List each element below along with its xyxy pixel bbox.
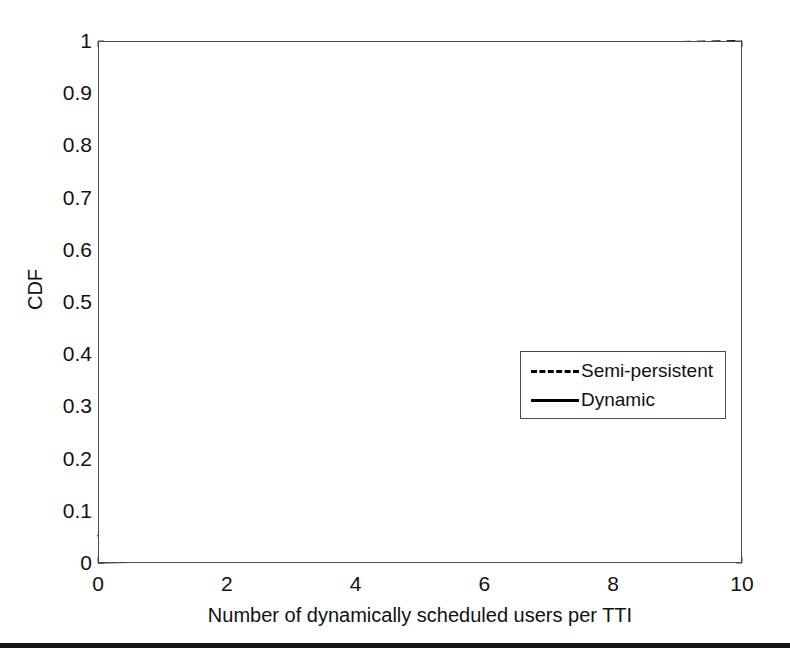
legend-label-semi-persistent: Semi-persistent: [581, 361, 713, 380]
legend-item-semi-persistent: Semi-persistent: [529, 356, 725, 385]
x-tick-label: 0: [68, 573, 128, 594]
y-tick-label: 0.8: [34, 134, 92, 155]
x-tick-label: 8: [583, 573, 643, 594]
scan-artifact-bar: [0, 643, 790, 648]
chart-legend: Semi-persistent Dynamic: [520, 351, 726, 419]
x-axis-tick-labels: 0246810: [0, 573, 790, 603]
y-tick-label: 0.9: [34, 82, 92, 103]
plot-area: [98, 41, 742, 563]
y-tick-label: 1: [34, 30, 92, 51]
y-tick-label: 0: [34, 552, 92, 573]
figure-cdf-chart: 00.10.20.30.40.50.60.70.80.91 0246810 CD…: [0, 0, 790, 660]
y-tick-label: 0.2: [34, 448, 92, 469]
y-tick-label: 0.4: [34, 343, 92, 364]
x-tick-label: 6: [454, 573, 514, 594]
legend-label-dynamic: Dynamic: [581, 390, 655, 409]
x-tick-label: 2: [197, 573, 257, 594]
x-tick-label: 4: [326, 573, 386, 594]
y-tick-label: 0.3: [34, 395, 92, 416]
y-axis-title: CDF: [24, 245, 47, 335]
legend-swatch-solid-icon: [529, 394, 581, 406]
y-tick-label: 0.1: [34, 500, 92, 521]
x-tick-label: 10: [712, 573, 772, 594]
x-axis-title: Number of dynamically scheduled users pe…: [98, 604, 742, 627]
legend-item-dynamic: Dynamic: [529, 385, 725, 414]
y-tick-label: 0.7: [34, 187, 92, 208]
legend-swatch-dashed-icon: [529, 365, 581, 377]
